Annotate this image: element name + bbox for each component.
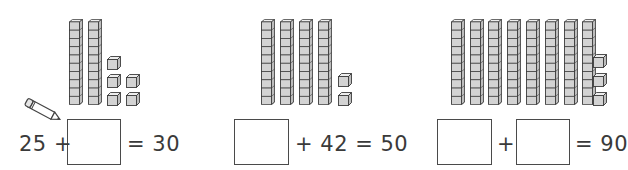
equation-right-text: = 30 <box>127 132 180 156</box>
pencil-icon <box>22 98 66 124</box>
ones-cube <box>126 73 140 87</box>
tens-rod <box>470 19 484 105</box>
tens-rod <box>299 19 313 105</box>
equation-right-text: = 90 <box>575 132 628 156</box>
ones-cube <box>126 91 140 105</box>
tens-rod <box>507 19 521 105</box>
tens-rod <box>545 19 559 105</box>
tens-rod <box>261 19 275 105</box>
tens-rod <box>451 19 465 105</box>
ones-cube <box>338 91 352 105</box>
tens-rod <box>526 19 540 105</box>
answer-box[interactable] <box>516 119 570 165</box>
ones-cube <box>593 72 607 86</box>
answer-box[interactable] <box>437 119 492 165</box>
equation-plus-sign: + <box>497 132 515 156</box>
answer-box[interactable] <box>234 119 289 165</box>
ones-cube <box>338 72 352 86</box>
ones-cube <box>593 53 607 67</box>
ones-cube <box>593 91 607 105</box>
equation-right-text: + 42 = 50 <box>295 132 408 156</box>
equation-left-text: 25 + <box>19 132 72 156</box>
answer-box[interactable] <box>67 119 121 165</box>
tens-rod <box>564 19 578 105</box>
tens-rod <box>69 19 83 105</box>
ones-cube <box>107 73 121 87</box>
ones-cube <box>107 55 121 69</box>
tens-rod <box>88 19 102 105</box>
tens-rod <box>280 19 294 105</box>
tens-rod <box>318 19 332 105</box>
tens-rod <box>488 19 502 105</box>
ones-cube <box>107 91 121 105</box>
